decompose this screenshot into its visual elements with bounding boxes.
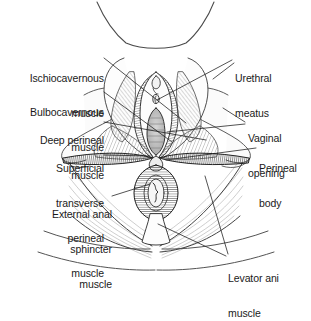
label-external-anal-sphincter-muscle: External anal sphincter muscle (0, 186, 112, 314)
mons-pubis-outline (97, 2, 214, 48)
label-perineal-body-line1: Perineal (259, 163, 311, 175)
label-levator-ani-muscle: Levator ani muscle (228, 250, 311, 321)
coccyx (142, 214, 170, 245)
label-levator-ani-line2: muscle (228, 308, 311, 320)
label-urethral-meatus-line1: Urethral (235, 73, 311, 85)
label-eas-line3: muscle (0, 279, 112, 291)
label-stp-line1: Superficial (0, 163, 104, 175)
label-perineal-body: Perineal body (259, 140, 311, 233)
label-levator-ani-line1: Levator ani (228, 273, 311, 285)
leader-levator-ani (205, 176, 228, 254)
anus (148, 179, 164, 207)
leader-urethral-meatus (213, 63, 234, 79)
label-eas-line1: External anal (0, 209, 112, 221)
label-perineal-body-line2: body (259, 198, 311, 210)
label-eas-line2: sphincter (0, 244, 112, 256)
